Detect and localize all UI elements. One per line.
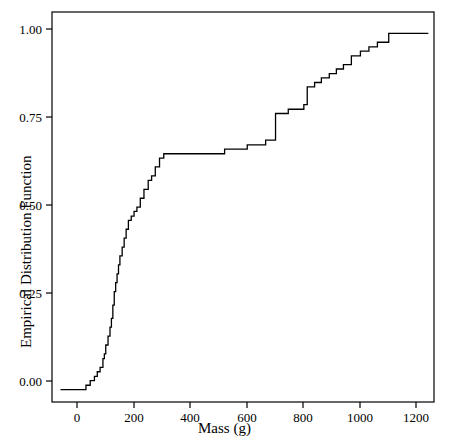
- chart-container: 0.00 0.25 0.50 0.75 1.00 0 200 400 600 8…: [0, 0, 449, 446]
- plot-frame: [52, 12, 434, 402]
- y-axis-ticks: [46, 29, 52, 381]
- y-axis-title: Empirical Distribution Function: [18, 156, 35, 348]
- x-axis-title: Mass (g): [0, 420, 449, 437]
- ecdf-plot: 0.00 0.25 0.50 0.75 1.00 0 200 400 600 8…: [0, 0, 449, 446]
- y-tick-label: 0.00: [19, 374, 42, 389]
- x-axis-ticks: [77, 402, 416, 408]
- y-tick-label: 0.75: [19, 110, 42, 125]
- y-tick-label: 1.00: [19, 22, 42, 37]
- ecdf-step-curve: [60, 33, 428, 389]
